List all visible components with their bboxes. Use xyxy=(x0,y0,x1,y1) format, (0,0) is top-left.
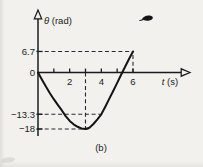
y-axis-tick-labels: 6.70−13.3−18 xyxy=(11,46,35,135)
ink-smudge-icon xyxy=(139,15,153,21)
paper-smudge xyxy=(1,156,16,163)
theta-vs-time-graph: 246 6.70−13.3−18 θ (rad) t (s) (b) xyxy=(0,0,203,167)
theta-curve xyxy=(38,52,133,130)
y-axis-label: θ (rad) xyxy=(44,15,72,26)
x-axis-tick-labels: 246 xyxy=(67,76,136,87)
figure-panel: 246 6.70−13.3−18 θ (rad) t (s) (b) xyxy=(0,0,203,167)
y-tick-label: −18 xyxy=(19,123,35,134)
dashed-guides xyxy=(38,51,133,129)
x-tick-label: 6 xyxy=(130,76,135,87)
x-axis-arrow-icon xyxy=(181,69,190,76)
x-tick-label: 2 xyxy=(67,76,72,87)
y-tick-label: 6.7 xyxy=(22,46,35,57)
y-unit: (rad) xyxy=(49,15,72,26)
figure-caption: (b) xyxy=(95,142,107,153)
x-axis-label: t (s) xyxy=(162,76,178,87)
y-tick-label: 0 xyxy=(30,67,35,78)
x-unit: (s) xyxy=(164,76,178,87)
x-tick-label: 4 xyxy=(99,76,104,87)
y-axis-arrow-icon xyxy=(34,10,41,19)
y-tick-label: −13.3 xyxy=(11,109,35,120)
